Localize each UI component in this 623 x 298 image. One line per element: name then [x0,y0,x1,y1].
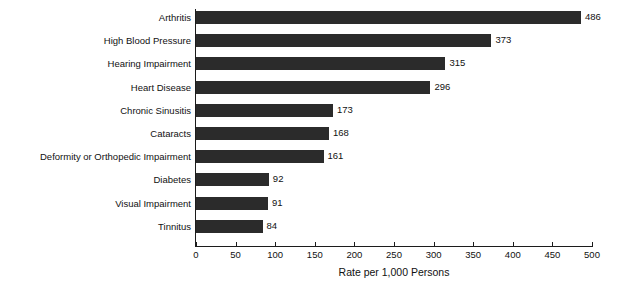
x-axis-tick [315,242,316,247]
category-label: Visual Impairment [5,197,195,210]
bar-row: 168 [196,127,592,140]
category-label: Deformity or Orthopedic Impairment [5,150,195,163]
category-label: Hearing Impairment [5,57,195,70]
bar [196,57,445,70]
x-axis-title: Rate per 1,000 Persons [196,266,592,278]
bar-value-label: 168 [329,126,349,139]
bar [196,197,268,210]
bar-row: 92 [196,173,592,186]
category-label: Diabetes [5,173,195,186]
x-axis-tick-label: 50 [230,249,241,261]
x-axis-tick-label: 400 [505,249,521,261]
x-axis-tick [513,242,514,247]
bar-value-label: 486 [581,10,601,23]
bar-row: 486 [196,11,592,24]
x-axis-tick [196,242,197,247]
category-label: Heart Disease [5,81,195,94]
x-axis-tick [434,242,435,247]
bar-value-label: 161 [324,149,344,162]
x-axis-tick [275,242,276,247]
bar [196,173,269,186]
bar-value-label: 315 [445,56,465,69]
x-axis-tick [354,242,355,247]
bar-value-label: 84 [263,219,278,232]
bar-row: 161 [196,150,592,163]
bar [196,220,263,233]
x-axis-tick-label: 500 [584,249,600,261]
bar-row: 91 [196,197,592,210]
bar [196,104,333,117]
category-label: High Blood Pressure [5,34,195,47]
x-axis-tick-label: 100 [267,249,283,261]
bar-row: 296 [196,81,592,94]
bar-row: 315 [196,57,592,70]
category-axis-labels: ArthritisHigh Blood PressureHearing Impa… [0,11,195,246]
bar-row: 173 [196,104,592,117]
horizontal-bar-chart: ArthritisHigh Blood PressureHearing Impa… [0,0,623,298]
x-axis-tick-label: 0 [193,249,198,261]
x-axis-tick-label: 200 [346,249,362,261]
x-axis-tick [473,242,474,247]
bar [196,34,491,47]
bar [196,11,581,24]
x-axis-tick [236,242,237,247]
x-axis-tick-label: 300 [426,249,442,261]
bar-value-label: 173 [333,103,353,116]
category-label: Chronic Sinusitis [5,104,195,117]
x-axis-tick [394,242,395,247]
bar-row: 373 [196,34,592,47]
bar-value-label: 92 [269,172,284,185]
category-label: Tinnitus [5,220,195,233]
x-axis-tick-label: 150 [307,249,323,261]
x-axis-tick-label: 450 [544,249,560,261]
plot-area: 486373315296173168161929184 [196,11,592,246]
bar [196,127,329,140]
category-label: Cataracts [5,127,195,140]
bar-value-label: 91 [268,196,283,209]
bar [196,150,324,163]
bar-value-label: 373 [491,33,511,46]
bar [196,81,430,94]
x-axis-tick-label: 350 [465,249,481,261]
bar-value-label: 296 [430,80,450,93]
x-axis-tick-label: 250 [386,249,402,261]
bar-row: 84 [196,220,592,233]
x-axis-tick [552,242,553,247]
x-axis-tick [592,242,593,247]
category-label: Arthritis [5,11,195,24]
